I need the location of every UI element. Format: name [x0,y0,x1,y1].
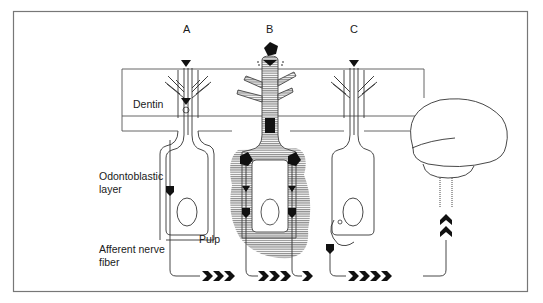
stimulus-marker-A [181,60,191,67]
ascending-chevrons [440,214,452,237]
signal-marker-A [166,186,174,196]
tubule-B [230,56,310,276]
impulse-chevrons-C [348,271,392,281]
diagram-canvas [0,0,543,303]
signal-marker-C [326,244,334,254]
column-label-C: C [350,23,358,36]
stimulus-marker-C [349,60,359,67]
diagram-figure: A B C Dentin Odontoblastic layer Afferen… [0,0,543,303]
receptor-C [338,220,342,224]
brain [411,99,508,276]
label-odontoblastic-line1: Odontoblastic [99,170,163,183]
impulse-chevrons-A [202,271,235,281]
column-label-A: A [183,23,190,36]
fluid-marker-A [181,98,191,105]
fluid-flow-marker-B [265,118,275,133]
impulse-chevrons-B [258,271,313,281]
label-pulp: Pulp [199,233,220,246]
tubule-C [330,68,377,276]
label-afferent-line2: fiber [99,256,119,269]
stimulus-arrow-B [264,42,278,56]
label-afferent-line1: Afferent nerve [99,243,165,256]
label-dentin: Dentin [133,98,163,111]
label-odontoblastic-line2: layer [99,183,122,196]
column-label-B: B [266,23,273,36]
